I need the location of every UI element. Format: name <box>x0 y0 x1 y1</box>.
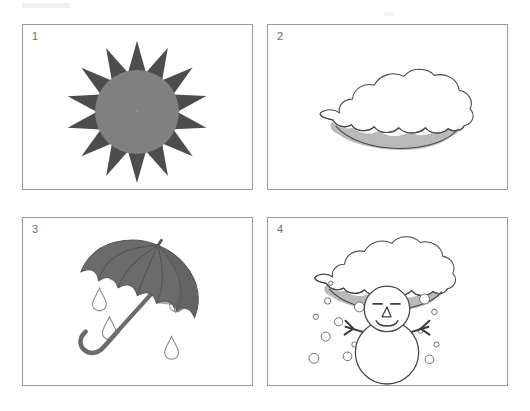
cloud-icon <box>268 25 507 189</box>
snowman-icon <box>268 218 507 385</box>
panel-4-snowman[interactable]: 4 <box>267 217 508 386</box>
panel-1-sun[interactable]: 1 <box>22 24 253 190</box>
weather-worksheet: 1 <box>0 0 530 411</box>
panel-3-umbrella[interactable]: 3 <box>22 217 253 386</box>
sun-icon <box>23 25 252 189</box>
scan-artifact <box>22 3 70 8</box>
umbrella-icon <box>23 218 252 385</box>
scan-artifact-secondary <box>384 12 394 16</box>
panel-2-cloud[interactable]: 2 <box>267 24 508 190</box>
